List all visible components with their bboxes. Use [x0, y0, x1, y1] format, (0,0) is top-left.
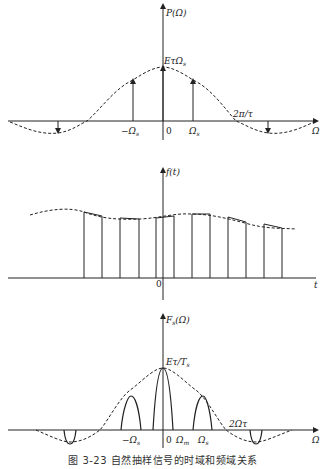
x-axis-label: Ω — [311, 126, 320, 136]
panel-time-domain: f(t) 0 t — [8, 167, 318, 300]
y-axis-label: f(t) — [165, 167, 180, 177]
tick-zero: 0 — [166, 435, 172, 445]
tick-omega-m: Ωm — [175, 435, 189, 446]
y-axis-label: Fs(Ω) — [165, 315, 190, 326]
peak-label: EτΩs — [163, 56, 186, 67]
zero-crossing-label: 2Ωτ — [228, 419, 248, 429]
y-axis-label: P(Ω) — [165, 8, 187, 18]
tick-zero: 0 — [166, 126, 172, 136]
origin-label: 0 — [156, 279, 162, 289]
sinc-envelope — [36, 368, 292, 442]
tick-pos-omega-s: Ωs — [188, 126, 200, 137]
x-axis-label: Ω — [311, 435, 320, 445]
figure-caption: 图 3-23 自然抽样信号的时域和频域关系 — [0, 452, 326, 467]
peak-label: Eτ/Ts — [165, 357, 190, 368]
tick-neg-omega-s: −Ωs — [122, 435, 140, 446]
figure-canvas: P(Ω) EτΩs −Ωs 0 Ωs 2π/τ Ω f(t) 0 t — [0, 0, 326, 469]
zero-crossing-label: 2π/τ — [232, 109, 254, 119]
panel-natural-sampled-spectrum: Fs(Ω) Eτ/Ts −Ωs 0 Ωm Ωs 2Ωτ Ω — [8, 315, 320, 448]
sampled-pulses — [84, 212, 282, 278]
tick-neg-omega-s: −Ωs — [121, 126, 139, 137]
tick-pos-omega-s: Ωs — [197, 435, 209, 446]
panel-sampled-pulse-spectrum: P(Ω) EτΩs −Ωs 0 Ωs 2π/τ Ω — [8, 6, 320, 140]
x-axis-label: t — [314, 280, 318, 290]
